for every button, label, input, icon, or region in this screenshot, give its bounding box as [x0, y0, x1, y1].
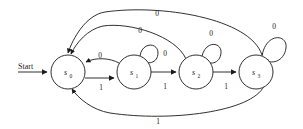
state-s0-label: s — [64, 68, 67, 77]
diagram-canvas: s 0 s 1 s 2 s 3 Start 1 0 1 1 0 0 0 0 0 … — [0, 0, 303, 129]
edge-label-s3-s0-one: 1 — [156, 117, 160, 126]
edge-label-s3-s0-zero: 0 — [155, 9, 159, 18]
state-s3-label: s — [252, 68, 255, 77]
edge-s1-to-s0-zero — [86, 59, 119, 63]
edge-label-s1-s0-zero: 0 — [98, 51, 102, 60]
edge-label-s2-self-zero: 0 — [209, 29, 213, 38]
state-s0-circle[interactable] — [51, 55, 85, 89]
state-s2-subscript: 2 — [198, 73, 201, 79]
edge-label-s2-s0-zero: 0 — [138, 26, 142, 35]
edge-label-s2-s3-one: 1 — [224, 82, 228, 91]
edge-label-s1-s2-one: 1 — [163, 82, 167, 91]
edge-label-s0-s1-one: 1 — [99, 83, 103, 92]
edge-label-s1-self-zero: 0 — [163, 49, 167, 58]
state-s1-subscript: 1 — [136, 73, 139, 79]
state-s3-subscript: 3 — [258, 73, 261, 79]
state-s2-label: s — [192, 68, 195, 77]
edge-label-s3-self-zero: 0 — [272, 22, 276, 31]
state-machine-diagram: s 0 s 1 s 2 s 3 Start 1 0 1 1 0 0 0 0 0 … — [0, 0, 303, 129]
state-s0-subscript: 0 — [70, 73, 73, 79]
state-s3-circle[interactable] — [239, 55, 273, 89]
edge-s2-to-s0-zero — [71, 25, 186, 59]
start-label: Start — [18, 62, 34, 71]
state-s1-label: s — [130, 68, 133, 77]
state-s1-circle[interactable] — [117, 55, 151, 89]
state-s2-circle[interactable] — [179, 55, 213, 89]
